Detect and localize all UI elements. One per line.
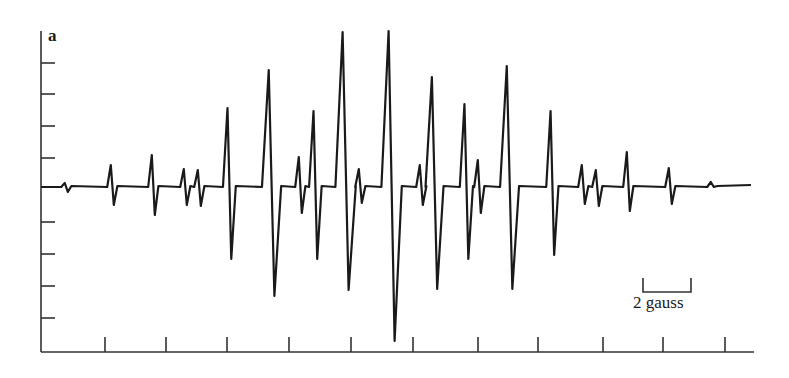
panel-label: a — [48, 26, 57, 46]
epr-spectrum-chart — [0, 0, 789, 378]
scale-bar — [643, 278, 691, 292]
scale-bar-label: 2 gauss — [633, 293, 684, 313]
